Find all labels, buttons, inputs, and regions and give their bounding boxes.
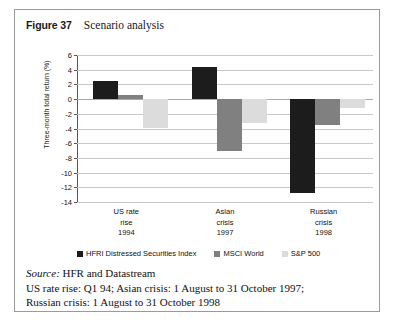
bar (315, 99, 340, 125)
y-axis-tick-label: 6 (68, 51, 72, 60)
category-label-line: crisis (274, 218, 373, 229)
gridline (77, 187, 373, 188)
gridline (77, 70, 373, 71)
gridline (77, 55, 373, 56)
x-axis-category-label: US raterise1994 (77, 207, 176, 239)
y-axis-tick (74, 129, 77, 130)
y-axis-tick (74, 143, 77, 144)
y-axis-tick-label: 0 (68, 95, 72, 104)
y-axis-tick-label: -4 (65, 124, 72, 133)
y-axis-tick (74, 202, 77, 203)
category-label-line: rise (77, 218, 176, 229)
y-axis-tick (74, 99, 77, 100)
legend-swatch-icon (77, 251, 83, 257)
legend-item-label: MSCI World (223, 249, 263, 258)
category-label-line: US rate (77, 207, 176, 218)
y-axis-tick-label: 2 (68, 80, 72, 89)
x-axis-category-label: Russiancrisis1998 (274, 207, 373, 239)
bar (290, 99, 315, 193)
category-label-line: crisis (176, 218, 275, 229)
gridline (77, 173, 373, 174)
legend-item-label: S&P 500 (291, 249, 320, 258)
gridline (77, 158, 373, 159)
legend-item[interactable]: HFRI Distressed Securities Index (77, 249, 196, 258)
bar-chart: Three-month total return (%) 6420-2-4-6-… (15, 39, 379, 257)
bar (93, 81, 118, 99)
y-axis-tick (74, 158, 77, 159)
y-axis-tick (74, 84, 77, 85)
legend-swatch-icon (282, 251, 288, 257)
y-axis-tick (74, 187, 77, 188)
y-axis-title: Three-month total return (%) (43, 30, 50, 180)
plot-area: 6420-2-4-6-8-10-12-14 US raterise1994Asi… (77, 55, 373, 202)
legend-item-label: HFRI Distressed Securities Index (86, 249, 196, 258)
category-label-line: 1998 (274, 228, 373, 239)
y-axis-tick-label: -10 (61, 168, 72, 177)
bar (217, 99, 242, 150)
figure-notes: Source: HFR and Datastream US rate rise:… (26, 266, 371, 310)
category-label-line: Russian (274, 207, 373, 218)
category-label-line: 1997 (176, 228, 275, 239)
y-axis-tick-label: -12 (61, 183, 72, 192)
y-axis-tick-label: -2 (65, 109, 72, 118)
y-axis-tick-label: -6 (65, 139, 72, 148)
y-axis-tick (74, 114, 77, 115)
gridline (77, 84, 373, 85)
y-axis-tick (74, 55, 77, 56)
bar (242, 99, 267, 123)
figure-caption: Scenario analysis (84, 19, 164, 31)
y-axis-tick (74, 173, 77, 174)
y-axis-tick-label: -8 (65, 153, 72, 162)
source-label: Source: (26, 267, 60, 279)
y-axis-tick-label: 4 (68, 65, 72, 74)
gridline (77, 202, 373, 203)
note-line-3: Russian crisis: 1 August to 31 October 1… (26, 295, 371, 310)
note-line-2: US rate rise: Q1 94; Asian crisis: 1 Aug… (26, 281, 371, 296)
bar (192, 67, 217, 99)
category-label-line: 1994 (77, 228, 176, 239)
bar (340, 99, 365, 108)
y-axis-tick (74, 70, 77, 71)
category-label-line: Asian (176, 207, 275, 218)
chart-legend: HFRI Distressed Securities IndexMSCI Wor… (77, 249, 338, 258)
legend-item[interactable]: MSCI World (214, 249, 263, 258)
bar (143, 99, 168, 128)
source-value: HFR and Datastream (63, 267, 156, 279)
legend-item[interactable]: S&P 500 (282, 249, 320, 258)
bar (118, 95, 143, 99)
legend-swatch-icon (214, 251, 220, 257)
source-line: Source: HFR and Datastream (26, 266, 371, 281)
y-axis-tick-label: -14 (61, 198, 72, 207)
x-axis-category-label: Asiancrisis1997 (176, 207, 275, 239)
figure-frame: Figure 37Scenario analysis Three-month t… (14, 9, 380, 312)
